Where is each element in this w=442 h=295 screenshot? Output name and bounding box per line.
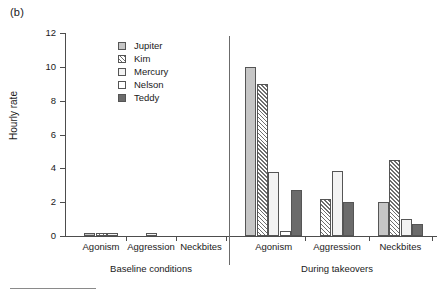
legend-item[interactable]: Mercury <box>118 65 168 78</box>
bar <box>257 84 268 236</box>
x-axis-tick <box>226 237 227 241</box>
panel-caption: Baseline conditions <box>56 263 246 274</box>
footer-rule <box>10 288 96 289</box>
legend: JupiterKimMercuryNelsonTeddy <box>118 39 168 104</box>
bar <box>343 202 354 236</box>
panel-caption: During takeovers <box>222 263 442 274</box>
bar <box>245 67 256 236</box>
y-axis-tick-label: 6 <box>8 130 56 140</box>
bar <box>96 233 107 236</box>
y-axis-tick-label: 8 <box>8 96 56 106</box>
legend-swatch-mercury <box>118 68 126 76</box>
bar <box>332 171 343 236</box>
legend-item[interactable]: Nelson <box>118 78 168 91</box>
legend-item-label: Kim <box>134 54 150 64</box>
legend-item-label: Nelson <box>134 80 164 90</box>
bar <box>291 190 302 236</box>
y-axis-tick-label-wrap: 4 <box>0 163 56 173</box>
bar <box>378 202 389 236</box>
y-axis-tick <box>60 236 66 237</box>
x-axis-group-label: Neckbites <box>164 241 238 252</box>
y-axis-tick-label-wrap: 10 <box>0 62 56 72</box>
y-axis-tick-label-wrap: 2 <box>0 197 56 207</box>
y-axis-tick-label-wrap: 8 <box>0 96 56 106</box>
legend-item-label: Teddy <box>134 93 159 103</box>
panel-label: (b) <box>10 6 24 18</box>
bar <box>320 199 331 236</box>
y-axis-tick-label: 2 <box>8 197 56 207</box>
bar <box>412 224 423 236</box>
y-axis-tick-label: 10 <box>8 62 56 72</box>
y-axis-tick-label-wrap: 0 <box>0 231 56 241</box>
figure-panel-b: (b) Hourly rate 024681012 AgonismAggress… <box>0 0 442 295</box>
bar <box>146 233 157 236</box>
x-axis-group-label: Neckbites <box>363 241 437 252</box>
legend-item-label: Mercury <box>134 67 168 77</box>
legend-item[interactable]: Jupiter <box>118 39 168 52</box>
bar <box>107 233 118 236</box>
x-axis-spine <box>65 236 437 237</box>
y-axis-tick-label: 4 <box>8 163 56 173</box>
legend-item-label: Jupiter <box>134 41 163 51</box>
legend-swatch-teddy <box>118 94 126 102</box>
y-axis-tick-label: 12 <box>8 28 56 38</box>
legend-item[interactable]: Teddy <box>118 91 168 104</box>
legend-item[interactable]: Kim <box>118 52 168 65</box>
x-axis-tick <box>369 237 370 241</box>
bar <box>280 231 291 236</box>
x-axis-tick <box>126 237 127 241</box>
bar <box>401 219 412 236</box>
legend-swatch-kim <box>118 55 126 63</box>
y-axis-tick-label-wrap: 12 <box>0 28 56 38</box>
y-axis-tick-label-wrap: 6 <box>0 130 56 140</box>
bar <box>268 172 279 236</box>
bar <box>389 160 400 236</box>
legend-swatch-nelson <box>118 81 126 89</box>
x-axis-tick <box>176 237 177 241</box>
bar <box>84 233 95 236</box>
legend-swatch-jupiter <box>118 42 126 50</box>
x-axis-tick <box>432 237 433 241</box>
x-axis-tick <box>305 237 306 241</box>
y-axis-tick-label: 0 <box>8 231 56 241</box>
